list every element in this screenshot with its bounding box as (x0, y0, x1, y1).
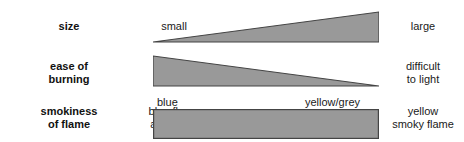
row-right-value-smokiness: yellow smoky flame (382, 105, 464, 131)
diagram-row-ease-of-burning: ease of burning ignite easily difficult … (0, 52, 464, 94)
bar-annotation-blue: blue (157, 96, 178, 109)
wedge-decreasing-polygon (153, 56, 379, 86)
wedge-decreasing-shape (153, 52, 379, 94)
row-right-value-size: large (382, 20, 464, 33)
row-property-label-size: size (10, 20, 128, 33)
row-right-value-smokiness-line1: yellow (382, 105, 464, 118)
wedge-increasing-polygon (153, 12, 379, 42)
row-right-value-ease-line1: difficult (382, 60, 464, 73)
diagram-row-size: size small large (0, 6, 464, 48)
row-graphic-size (153, 6, 379, 48)
row-property-label-ease-line1: ease of (10, 60, 128, 73)
row-right-value-smokiness-line2: smoky flame (382, 118, 464, 131)
row-property-label-smokiness: smokiness of flame (10, 105, 128, 131)
row-graphic-ease (153, 52, 379, 94)
row-property-label-ease-line2: burning (10, 73, 128, 86)
diagram-row-smokiness: smokiness of flame blue flame almost no … (0, 96, 464, 140)
row-property-label-smokiness-line1: smokiness (10, 105, 128, 118)
row-property-label-ease: ease of burning (10, 60, 128, 86)
wedge-increasing-shape (153, 6, 379, 48)
fuel-property-diagram: size small large ease of burning ignite … (0, 0, 464, 142)
row-property-label-smokiness-line2: of flame (10, 118, 128, 131)
bar-annotation-yellow-grey: yellow/grey (305, 96, 360, 109)
row-right-value-ease: difficult to light (382, 60, 464, 86)
row-right-value-ease-line2: to light (382, 73, 464, 86)
uniform-bar-rect (154, 110, 379, 139)
